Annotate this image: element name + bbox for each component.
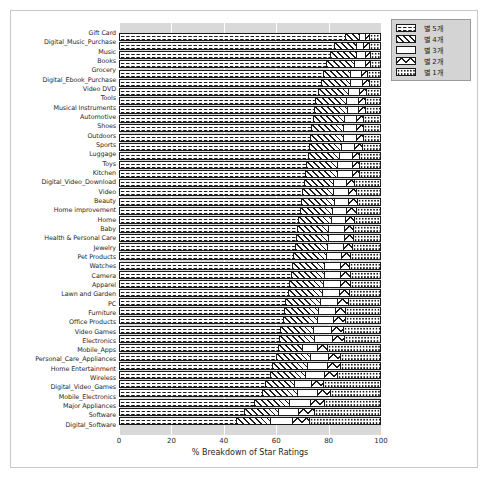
- bar-segment: [255, 400, 290, 406]
- bar-segment: [263, 390, 298, 396]
- bar-segment: [325, 263, 341, 269]
- bar-segment: [350, 290, 380, 296]
- y-axis-tick-label: Digital_Music_Purchase: [11, 38, 119, 46]
- bar-row: [119, 289, 381, 297]
- bar-segment: [120, 180, 305, 186]
- bar-segment: [357, 208, 380, 214]
- bar-segment: [357, 116, 365, 122]
- bar-row: [119, 252, 381, 260]
- bar-segment: [315, 336, 333, 342]
- bar-segment: [120, 199, 302, 205]
- y-axis-tick-label: Beauty: [11, 197, 119, 205]
- bar-segment: [301, 208, 334, 214]
- y-axis-tick-label: Sports: [11, 141, 119, 149]
- bar-segment: [346, 317, 380, 323]
- bar-segment: [245, 409, 279, 415]
- bar-segment: [351, 253, 380, 259]
- bar-segment: [120, 98, 316, 104]
- bar-segment: [309, 153, 340, 159]
- bar-row: [119, 207, 381, 215]
- y-axis-tick-label: Digital_Video_Games: [11, 383, 119, 391]
- y-axis-tick-label: Video: [11, 188, 119, 196]
- x-axis-title: % Breakdown of Star Ratings: [119, 448, 381, 457]
- bar-row: [119, 380, 381, 388]
- bar-segment: [120, 390, 263, 396]
- bar-row: [119, 280, 381, 288]
- bar-segment: [353, 244, 380, 250]
- bar-row: [119, 399, 381, 407]
- bar-segment: [336, 308, 346, 314]
- bar-segment: [120, 217, 299, 223]
- bar-segment: [120, 372, 271, 378]
- legend-label: 별 4개: [424, 34, 443, 44]
- bar-segment: [370, 43, 380, 49]
- plot-area: [119, 23, 381, 435]
- bar-segment: [302, 199, 335, 205]
- bar-segment: [360, 162, 380, 168]
- bar-segment: [293, 418, 310, 424]
- bar-segment: [237, 418, 271, 424]
- bar-segment: [344, 135, 357, 141]
- bar-segment: [120, 263, 293, 269]
- bar-segment: [307, 162, 338, 168]
- y-axis-tick-label: Wireless: [11, 374, 119, 382]
- legend-item: 별 4개: [396, 34, 466, 44]
- bar-row: [119, 124, 381, 132]
- bar-segment: [324, 71, 351, 77]
- y-axis-tick-label: Automotive: [11, 113, 119, 121]
- bar-row: [119, 70, 381, 78]
- bar-segment: [310, 144, 343, 150]
- bar-row: [119, 198, 381, 206]
- bar-segment: [311, 400, 325, 406]
- bar-segment: [120, 208, 301, 214]
- y-axis-tick-label: Digital_Ebook_Purchase: [11, 76, 119, 84]
- bar-segment: [357, 189, 380, 195]
- bar-segment: [293, 263, 326, 269]
- y-axis-tick-label: Software: [11, 411, 119, 419]
- bar-segment: [345, 116, 357, 122]
- y-axis-tick-label: Musical Instruments: [11, 104, 119, 112]
- y-axis-tick-label: Digital_Video_Download: [11, 178, 119, 186]
- y-axis-tick-label: Home: [11, 216, 119, 224]
- bar-segment: [120, 336, 280, 342]
- bar-segment: [314, 116, 345, 122]
- bar-segment: [280, 336, 315, 342]
- bar-segment: [314, 327, 332, 333]
- bar-segment: [325, 400, 380, 406]
- bar-row: [119, 408, 381, 416]
- y-axis-tick-label: Furniture: [11, 309, 119, 317]
- bar-segment: [298, 390, 318, 396]
- bar-segment: [335, 199, 349, 205]
- x-axis-tick-labels: 020406080100: [119, 435, 381, 449]
- bar-segment: [318, 345, 328, 351]
- bar-segment: [354, 235, 380, 241]
- bar-segment: [341, 281, 351, 287]
- bar-segment: [120, 418, 237, 424]
- y-axis-tick-label: Office Products: [11, 318, 119, 326]
- bar-segment: [353, 153, 361, 159]
- y-axis-tick-label: Personal_Care_Appliances: [11, 355, 119, 363]
- bar-segment: [321, 299, 338, 305]
- x-axis-tick-label: 20: [167, 437, 176, 445]
- bar-segment: [345, 235, 354, 241]
- bar-row: [119, 97, 381, 105]
- bar-segment: [315, 409, 380, 415]
- y-axis-tick-label: Video Games: [11, 328, 119, 336]
- bar-segment: [319, 89, 349, 95]
- bar-segment: [341, 263, 350, 269]
- bar-row: [119, 143, 381, 151]
- bar-row: [119, 161, 381, 169]
- bar-segment: [344, 244, 353, 250]
- bar-row: [119, 353, 381, 361]
- bar-segment: [370, 80, 380, 86]
- y-axis-tick-label: Music: [11, 48, 119, 56]
- bar-segment: [370, 34, 380, 40]
- bar-segment: [328, 244, 344, 250]
- bar-segment: [303, 345, 317, 351]
- y-axis-tick-label: Video DVD: [11, 85, 119, 93]
- bar-segment: [347, 180, 355, 186]
- bar-segment: [277, 354, 311, 360]
- bar-segment: [333, 336, 345, 342]
- bar-row: [119, 134, 381, 142]
- bar-row: [119, 316, 381, 324]
